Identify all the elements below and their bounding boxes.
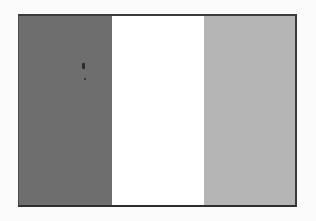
tricolor-flag [18, 14, 297, 207]
flag-stripe-right [204, 16, 295, 205]
ink-speck [84, 78, 86, 80]
flag-stripe-left [19, 16, 112, 205]
ink-speck [82, 63, 85, 69]
flag-stripe-middle [112, 16, 204, 205]
